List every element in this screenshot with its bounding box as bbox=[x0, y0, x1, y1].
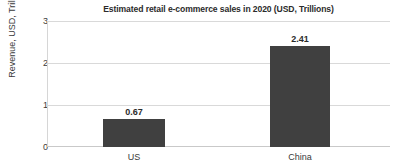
y-tick-label-3: 3 bbox=[28, 16, 48, 26]
gridline-2 bbox=[47, 63, 390, 64]
bar-chart: Estimated retail e-commerce sales in 202… bbox=[0, 0, 402, 168]
x-category-label-us: US bbox=[103, 152, 165, 163]
y-axis-line bbox=[47, 21, 48, 147]
y-axis-title: Revenue, USD, Trillions bbox=[5, 0, 19, 92]
bar-value-us: 0.67 bbox=[103, 107, 165, 118]
gridline-3 bbox=[47, 21, 390, 22]
chart-title: Estimated retail e-commerce sales in 202… bbox=[47, 4, 390, 14]
y-tick-label-1: 1 bbox=[28, 100, 48, 110]
x-category-label-china: China bbox=[270, 152, 330, 163]
bar-china[interactable] bbox=[270, 46, 330, 147]
y-tick-label-2: 2 bbox=[28, 58, 48, 68]
plot-area: 0.67 2.41 bbox=[47, 21, 390, 147]
gridline-1 bbox=[47, 105, 390, 106]
bar-value-china: 2.41 bbox=[270, 34, 330, 45]
y-tick-label-0: 0 bbox=[28, 142, 48, 152]
gridline-0 bbox=[47, 146, 390, 147]
bar-us[interactable] bbox=[103, 119, 165, 147]
